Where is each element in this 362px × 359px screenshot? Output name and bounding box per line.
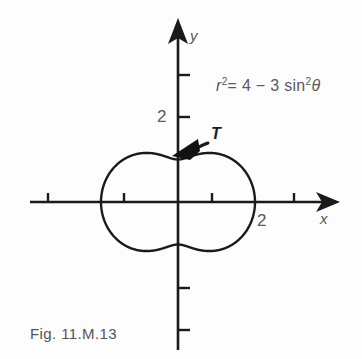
- y-axis-label: y: [190, 28, 198, 43]
- equation-annotation: r2= 4 − 3 sin2θ: [216, 78, 320, 94]
- x-axis-label: x: [320, 211, 328, 226]
- tangent-vector-arrowhead: [172, 139, 200, 160]
- equation-three-sin: 3 sin: [266, 77, 306, 94]
- polar-curve-plot: [0, 0, 362, 359]
- figure-container: y x 2 2 T r2= 4 − 3 sin2θ Fig. 11.M.13: [0, 0, 362, 359]
- x-axis-tick-label-2: 2: [257, 212, 266, 229]
- equation-theta-symbol: θ: [311, 77, 320, 94]
- equation-minus-sign: −: [256, 77, 266, 94]
- tangent-vector-label: T: [211, 126, 221, 142]
- y-axis-tick-label-2: 2: [157, 108, 166, 125]
- figure-caption: Fig. 11.M.13: [30, 326, 117, 341]
- equation-equals-four: = 4: [228, 77, 256, 94]
